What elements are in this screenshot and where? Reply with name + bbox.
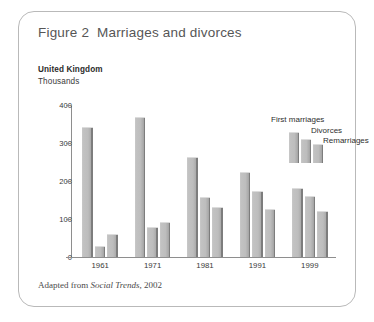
chart-legend: First marriagesDivorcesRemarriages (271, 115, 374, 163)
legend-swatch (313, 144, 323, 163)
bar (95, 246, 106, 257)
x-axis-label: 1991 (249, 261, 266, 270)
bar-group (240, 105, 276, 257)
y-axis-tick-mark (66, 257, 72, 258)
x-axis-line (71, 257, 336, 258)
legend-swatch (301, 139, 311, 163)
bar (252, 191, 263, 257)
y-axis-unit-label: Thousands (38, 77, 79, 86)
bar-group (187, 105, 223, 257)
bar (292, 188, 303, 257)
bar (240, 172, 251, 257)
region-label: United Kingdom (38, 65, 103, 74)
source-publication-title: Social Trends (90, 280, 139, 290)
bar (187, 157, 198, 257)
bar (305, 196, 316, 257)
x-axis-label: 1961 (92, 261, 109, 270)
bar-group (135, 105, 171, 257)
figure-frame: Figure 2 Marriages and divorces United K… (18, 11, 356, 307)
legend-swatch (289, 132, 299, 163)
source-note: Adapted from Social Trends, 2002 (38, 280, 162, 290)
figure-title: Figure 2 Marriages and divorces (38, 25, 242, 40)
bar (212, 207, 223, 257)
bar (265, 209, 276, 258)
bar (160, 222, 171, 257)
bar (317, 211, 328, 257)
bar (82, 127, 93, 257)
bar (135, 117, 146, 257)
bar (147, 227, 158, 257)
legend-label: Remarriages (323, 136, 369, 145)
x-axis-label: 1999 (301, 261, 318, 270)
bar-group (82, 105, 118, 257)
bar (200, 197, 211, 257)
x-axis-label: 1971 (144, 261, 161, 270)
bar (107, 234, 118, 257)
source-prefix: Adapted from (38, 280, 90, 290)
source-year: , 2002 (139, 280, 162, 290)
legend-label: First marriages (271, 115, 324, 124)
x-axis-label: 1981 (196, 261, 213, 270)
legend-label: Divorces (311, 126, 342, 135)
